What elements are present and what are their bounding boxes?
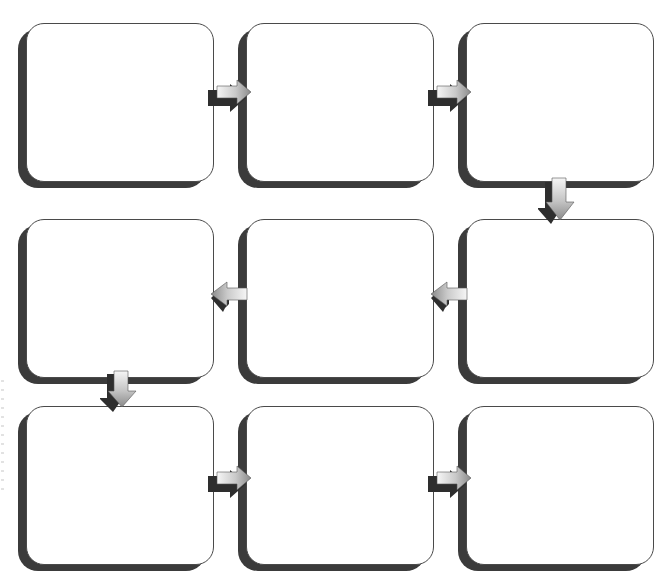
box-label — [26, 406, 214, 565]
arrow-right-icon — [427, 78, 471, 112]
flow-box-step-8 — [246, 406, 434, 565]
scan-edge-artifact — [1, 380, 4, 490]
flow-box-step-1 — [26, 23, 214, 182]
arrow-down-icon — [100, 369, 140, 413]
arrow-down-icon — [538, 176, 578, 226]
flow-box-step-6 — [26, 219, 214, 378]
box-label — [26, 219, 214, 378]
flow-box-step-3 — [466, 23, 654, 182]
flow-box-step-5 — [246, 219, 434, 378]
arrow-right-icon — [207, 464, 251, 498]
flow-box-step-2 — [246, 23, 434, 182]
box-label — [466, 406, 654, 565]
box-label — [246, 23, 434, 182]
flow-box-step-4 — [466, 219, 654, 378]
arrow-right-icon — [427, 464, 471, 498]
arrow-left-icon — [207, 278, 251, 316]
box-label — [246, 219, 434, 378]
box-label — [466, 23, 654, 182]
flow-box-step-9 — [466, 406, 654, 565]
arrow-right-icon — [207, 78, 251, 112]
arrow-left-icon — [427, 278, 471, 316]
flow-box-step-7 — [26, 406, 214, 565]
box-label — [466, 219, 654, 378]
box-label — [246, 406, 434, 565]
box-label — [26, 23, 214, 182]
